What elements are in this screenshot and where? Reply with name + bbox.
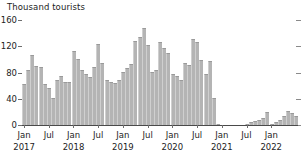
- y-axis-tick-label: 80: [6, 68, 17, 78]
- y-axis-tick-label: 120: [1, 41, 17, 51]
- x-axis-month-label: Jan: [17, 130, 30, 140]
- chart-title: Thousand tourists: [7, 2, 85, 12]
- x-axis-year-label: 2018: [63, 142, 85, 152]
- y-axis-tick-label: 160: [1, 15, 17, 25]
- x-axis-line: [22, 125, 298, 126]
- y-axis-tick-label: 40: [6, 94, 17, 104]
- tourism-bar-chart: Thousand tourists 04080120160 Jan2017Jul…: [0, 0, 302, 157]
- plot-area: [22, 18, 298, 125]
- x-axis-month-label: Jul: [192, 130, 202, 140]
- x-axis-tick-mark: [49, 125, 50, 128]
- x-axis-year-label: 2020: [162, 142, 184, 152]
- x-axis-year-label: 2019: [112, 142, 134, 152]
- x-axis-tick-mark: [247, 125, 248, 128]
- x-axis-tick-mark: [98, 125, 99, 128]
- x-axis-month-label: Jul: [241, 130, 251, 140]
- x-axis-year-label: 2017: [13, 142, 35, 152]
- x-axis-month-label: Jan: [67, 130, 80, 140]
- x-axis-tick-mark: [197, 125, 198, 128]
- x-axis-year-label: 2021: [211, 142, 233, 152]
- x-axis-tick-mark: [222, 125, 223, 128]
- y-axis-labels: 04080120160: [0, 0, 17, 157]
- x-axis-tick-mark: [123, 125, 124, 128]
- x-axis-month-label: Jan: [116, 130, 129, 140]
- x-axis-month-label: Jul: [143, 130, 153, 140]
- x-axis-month-label: Jul: [44, 130, 54, 140]
- x-axis-tick-mark: [148, 125, 149, 128]
- x-axis-tick-mark: [73, 125, 74, 128]
- y-axis-tick-label: 0: [12, 120, 17, 130]
- x-axis-tick-mark: [24, 125, 25, 128]
- x-axis-month-label: Jan: [215, 130, 228, 140]
- bar: [212, 98, 216, 125]
- x-axis-month-label: Jul: [93, 130, 103, 140]
- x-axis-tick-mark: [172, 125, 173, 128]
- x-axis-year-label: 2022: [260, 142, 282, 152]
- x-axis-month-label: Jan: [166, 130, 179, 140]
- x-axis-month-label: Jan: [265, 130, 278, 140]
- bar-series: [22, 18, 298, 125]
- x-axis-tick-mark: [271, 125, 272, 128]
